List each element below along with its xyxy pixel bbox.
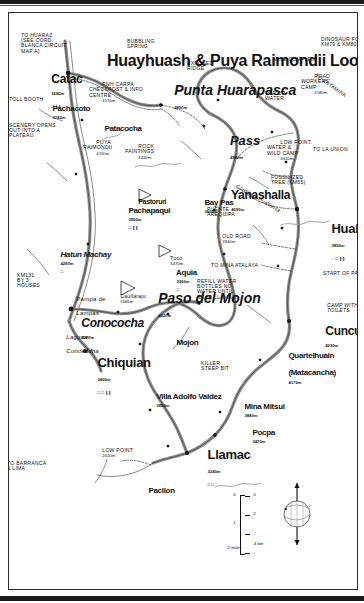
pass-elev-paso-del-mojon: 4310m — [158, 313, 171, 318]
note-to-mina-atalaya: TO MINA ATALAYA — [211, 263, 258, 268]
town-label-pastoruri: Pastoruri — [125, 191, 166, 212]
note-old-road-elev: 3940m — [222, 239, 235, 244]
place-elev-quartelhuain: 4170m — [288, 380, 301, 385]
note-rock-paintings-elev: 4430m — [138, 155, 151, 160]
top-rule-thin — [0, 5, 364, 6]
town-label-huallanca: Huallanca 3850m ○ □ ❙❙ — [305, 209, 358, 275]
note-exposed-ridge: EXPOSED RIDGE — [187, 61, 213, 71]
note-to-huaraz: TO HUARAZ (SEE CORD. BLANCA CIRCUIT MAP … — [21, 33, 67, 54]
peak-elev-caullaraju: 5686m — [120, 299, 133, 304]
town-label-quartelhuain: Quartelhuain (Matacancha) 4170m — [273, 343, 336, 396]
note-start-of-pampa: START OF PAMPA — [323, 271, 358, 276]
town-name-cuncush: Cuncush — [325, 324, 358, 338]
town-label-pacllon: Pacllon — [133, 479, 175, 503]
area-label-pampa-de-lampas: Pampa de Lampas — [61, 289, 106, 323]
note-road-workers-camp-elev: 4180m — [314, 90, 327, 95]
town-icons-chiquian: □ □ ❙❙ — [98, 390, 111, 395]
note-top-up-water: TOP UP WATER — [265, 91, 285, 101]
note-camp-with-toilets: CAMP WITH TOILETS — [327, 303, 358, 313]
map-rotated-canvas: .road{fill:none;stroke:#8d8d8d;stroke-wi… — [9, 13, 357, 589]
note-old-road: OLD ROAD 3940m — [209, 229, 251, 250]
town-elev-pachapaqui: 3950m — [128, 217, 141, 222]
town-label-villa-adolfo-valdez: Villa Adolfo Valdez 2880m — [141, 385, 221, 418]
pass-name-pass: Pass — [230, 133, 260, 148]
note-road-workers-camp: ROAD WORKERS' CAMP 4180m — [301, 69, 330, 100]
town-elev-catac: 3680m — [51, 91, 64, 96]
area-name-laguna: Laguna — [66, 334, 88, 340]
note-bubbling-spring: BUBBLING SPRING — [127, 39, 155, 49]
note-puente-arequipa: PUENTE AREQUIPA — [207, 207, 235, 217]
peak-label-caullaraju: Caullaraju 5686m — [107, 289, 146, 310]
town-name-pocpa: Pocpa — [252, 428, 275, 437]
area-label-laguna-conococha: Laguna Conococha — [51, 327, 99, 361]
note-pnh-carpa-text: PNH CARPA CHECKPOST & INFO CENTRE — [89, 81, 143, 97]
note-rock-paintings-text: ROCK PAINTINGS — [125, 143, 154, 154]
pass-label-pass: Pass 4980m — [201, 121, 260, 174]
note-low-point-wild-camp-elev: 4610m — [280, 156, 293, 161]
note-puya-raimondii-text: PUYA RAIMONDII — [83, 139, 112, 150]
note-toll-booth: TOLL BOOTH — [9, 97, 44, 102]
note-puya-raimondii-elev: 4240m — [96, 151, 109, 156]
note-to-barranca-lima: TO BARRANCA & LIMA — [8, 461, 46, 471]
town-icons-hatun-machay: □ — [60, 269, 63, 274]
map-root: .road{fill:none;stroke:#8d8d8d;stroke-wi… — [0, 0, 364, 603]
scale-zero-km: 0 — [253, 492, 255, 497]
peak-elev-tuco: 5470m — [170, 261, 183, 266]
scale-mid-km: 2 — [253, 511, 255, 516]
town-icons-llamac: □ □ — [208, 482, 214, 487]
town-name-pachacoto: Pachacoto — [52, 104, 90, 113]
scale-max-km: 4 km — [254, 541, 264, 546]
town-name-catac: Catac — [51, 72, 82, 86]
town-elev-pocpa: 3470m — [252, 439, 265, 444]
top-rule — [0, 0, 364, 4]
note-dinosaur-footprints: DINOSAUR FOOTPRINTS KM79 & KM80 — [321, 37, 358, 47]
town-elev-huallanca: 3850m — [332, 243, 345, 248]
town-elev-hatun-machay: 4280m — [60, 261, 73, 266]
note-scenery-opens: SCENERY OPENS OUT INTO A PLATEAU — [9, 123, 56, 139]
compass-rose — [273, 479, 317, 549]
town-name-mojon: Mojon — [176, 338, 198, 347]
scale-bar: 0 2 4 km 0 1 2 miles — [240, 495, 245, 555]
town-elev-villa-adolfo-valdez: 2880m — [156, 403, 169, 408]
town-name-mina-mitsui: Mina Mitsui — [244, 402, 284, 411]
note-puya-raimondii: PUYA RAIMONDII 4240m — [83, 135, 112, 161]
bottom-rule — [0, 596, 364, 601]
town-label-hatun-machay: Hatun Machay 4280m □ — [45, 243, 111, 284]
note-mine-complex: MINE COMPLEX — [273, 57, 315, 62]
note-low-point-pacllon: LOW POINT 2620m — [89, 443, 133, 464]
note-killer-steep-bit: KILLER STEEP BIT — [201, 361, 229, 371]
note-km131-houses: KM131 BY 3 HOUSES — [17, 273, 40, 289]
place-name-quartelhuain: Quartelhuain — [288, 351, 334, 360]
note-low-point-wild-camp-text: LOW POINT. WATER & WILD CAMP — [267, 139, 312, 155]
note-low-point-elev: 2620m — [102, 453, 115, 458]
note-low-point-wild-camp: LOW POINT. WATER & WILD CAMP 4610m — [267, 135, 312, 166]
pass-elev-pass: 4980m — [230, 155, 243, 160]
pass-label-paso-del-mojon: Paso del Mojon 4310m — [127, 277, 261, 333]
area-name-pampa-de-lampas-2: Lampas — [76, 310, 99, 316]
town-label-mojon: Mojon — [161, 331, 198, 355]
town-label-mina-mitsui: Mina Mitsui 3880m — [229, 395, 285, 428]
town-icons-huallanca: ○ □ ❙❙ — [332, 256, 345, 261]
town-elev-pachacoto: 3740m — [52, 115, 65, 120]
scale-max-mile: 2 miles — [228, 545, 242, 550]
map-frame: .road{fill:none;stroke:#8d8d8d;stroke-wi… — [8, 12, 358, 590]
town-icons-pachapaqui: □ ❙❙ — [128, 225, 138, 230]
town-name-villa-adolfo-valdez: Villa Adolfo Valdez — [156, 392, 221, 401]
note-fossilized-tree: FOSSILIZED TREE (KM55) — [271, 175, 305, 185]
town-name-huallanca: Huallanca — [332, 221, 359, 236]
town-elev-chiquian: 3400m — [98, 377, 111, 382]
pass-elev-punta-huarapasca: 4850m — [174, 105, 187, 110]
town-elev-llamac: 3240m — [208, 469, 221, 474]
note-to-la-union: TO LA UNION — [313, 147, 348, 152]
note-chiquian-cheese-honey: PILES OF CHIQUIAN CHEESE & HONEY FOR SAL… — [8, 303, 9, 319]
note-refill-water: REFILL WATER BOTTLES NO WATER UNTIL NEAR… — [197, 279, 236, 300]
town-name-pastoruri: Pastoruri — [138, 198, 166, 205]
scale-mid-mile: 1 — [233, 520, 235, 525]
town-name-hatun-machay: Hatun Machay — [60, 250, 111, 259]
note-pnh-carpa-elev: 4170m — [102, 98, 115, 103]
area-name-pampa-de-lampas-1: Pampa de — [76, 296, 105, 302]
town-name-pacllon: Pacllon — [148, 486, 174, 495]
peak-label-tuco: Tuco 5470m — [157, 251, 183, 272]
note-pnh-carpa-checkpost: PNH CARPA CHECKPOST & INFO CENTRE 4170m — [89, 77, 143, 108]
town-name-patacocha: Patacocha — [104, 124, 141, 133]
